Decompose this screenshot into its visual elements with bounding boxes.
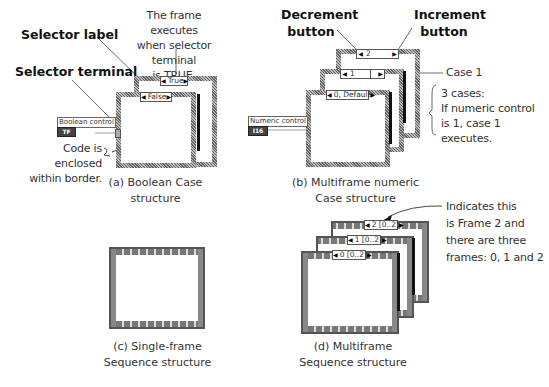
numeric-control-terminal[interactable]: I16 xyxy=(248,126,268,136)
callout-lines xyxy=(0,0,549,387)
decrement-icon[interactable]: ◀ xyxy=(341,69,348,79)
caption-c: (c) Single-frame Sequence structure xyxy=(90,339,225,371)
sequence-selector-0[interactable]: ◀ 0 [0..2] ▶ xyxy=(332,250,366,260)
increment-icon[interactable]: ▶ xyxy=(367,250,372,260)
caption-a: (a) Boolean Case structure xyxy=(88,175,223,207)
selector-value: 0, Default xyxy=(332,90,371,100)
cases-note-callout: 3 cases: If numeric control is 1, case 1… xyxy=(441,86,549,146)
selector-2[interactable]: ◀ 2 ▶ xyxy=(356,49,399,59)
selector-0-default[interactable]: ◀ 0, Default ▶ xyxy=(326,90,369,100)
case-frame-0-default xyxy=(306,90,390,167)
caption-b: (b) Multiframe numeric Case structure xyxy=(288,175,423,207)
selector-label-callout: Selector label xyxy=(21,26,118,43)
film-side-right xyxy=(422,223,427,301)
increment-icon[interactable]: ▶ xyxy=(377,69,384,79)
case-frame-false xyxy=(116,92,196,168)
selector-value: 1 xyxy=(348,69,371,79)
decrement-button-callout: Decrement button xyxy=(281,6,341,40)
selector-false[interactable]: ◀ False ▶ xyxy=(140,92,172,102)
frame-shadow xyxy=(397,253,400,311)
frame-executes-callout: The frame executes when selector termina… xyxy=(124,8,224,83)
film-strip-bottom xyxy=(303,326,397,332)
film-side-right xyxy=(198,249,203,327)
frame-shadow xyxy=(197,94,200,151)
increment-icon[interactable]: ▶ xyxy=(371,90,376,100)
increment-icon[interactable]: ▶ xyxy=(382,235,387,245)
boolean-control-terminal[interactable]: TF xyxy=(57,127,76,137)
selector-value: 1 [0..2] xyxy=(353,235,382,245)
selector-true[interactable]: ◀ True ▶ xyxy=(160,76,188,86)
sequence-selector-1[interactable]: ◀ 1 [0..2] ▶ xyxy=(347,235,381,245)
sequence-selector-2[interactable]: ◀ 2 [0..2] ▶ xyxy=(364,220,398,230)
film-side-left xyxy=(303,253,308,332)
case-1-callout: Case 1 xyxy=(446,65,482,80)
frame-shadow xyxy=(403,71,406,123)
single-frame-sequence xyxy=(109,247,205,329)
increment-button-callout: Increment button xyxy=(414,6,474,40)
frame-shadow xyxy=(389,92,392,144)
film-strip-top xyxy=(111,249,203,255)
selector-value: 2 [0..2] xyxy=(370,220,399,230)
film-side-left xyxy=(111,249,116,327)
sequence-frame-0 xyxy=(301,251,399,334)
selector-1[interactable]: ◀ 1 ▶ xyxy=(340,69,385,79)
selector-terminal-callout: Selector terminal xyxy=(15,63,137,80)
increment-button[interactable]: ▶ xyxy=(391,49,398,59)
frame-indicator-callout: Indicates this is Frame 2 and there are … xyxy=(446,198,544,266)
selector-terminal[interactable] xyxy=(115,129,121,138)
increment-icon[interactable]: ▶ xyxy=(399,220,404,230)
selector-value: False xyxy=(146,92,167,102)
caption-d: (d) Multiframe Sequence structure xyxy=(288,339,418,371)
selector-value: True xyxy=(166,76,184,86)
increment-icon[interactable]: ▶ xyxy=(184,76,189,86)
decrement-button[interactable]: ◀ xyxy=(357,49,364,59)
selector-value: 2 xyxy=(364,49,391,59)
film-strip-bottom xyxy=(111,321,203,327)
increment-icon[interactable]: ▶ xyxy=(166,92,171,102)
selector-value: 0 [0..2] xyxy=(338,250,367,260)
frame-shadow xyxy=(412,238,415,295)
